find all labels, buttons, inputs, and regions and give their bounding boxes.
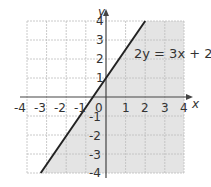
svg-text:3: 3: [96, 33, 104, 47]
svg-text:-4: -4: [89, 166, 101, 180]
svg-text:1: 1: [122, 101, 130, 115]
svg-text:1: 1: [96, 71, 104, 85]
svg-text:-2: -2: [54, 101, 66, 115]
svg-text:4: 4: [96, 14, 104, 28]
svg-text:-3: -3: [34, 101, 46, 115]
svg-text:-2: -2: [89, 129, 101, 143]
svg-text:3: 3: [161, 101, 169, 115]
equation-label: 2y = 3x + 2: [134, 46, 211, 61]
svg-text:-1: -1: [89, 110, 101, 124]
svg-text:-1: -1: [74, 101, 86, 115]
svg-text:2: 2: [96, 52, 104, 66]
svg-text:2: 2: [141, 101, 149, 115]
svg-text:-3: -3: [89, 148, 101, 162]
svg-text:-4: -4: [14, 101, 26, 115]
coordinate-plane: y x -4 -3 -2 -1 0 1 2 3 4 4 3 2 1 -1 -2 …: [0, 0, 211, 187]
x-axis-label: x: [191, 97, 200, 111]
svg-text:4: 4: [180, 101, 188, 115]
